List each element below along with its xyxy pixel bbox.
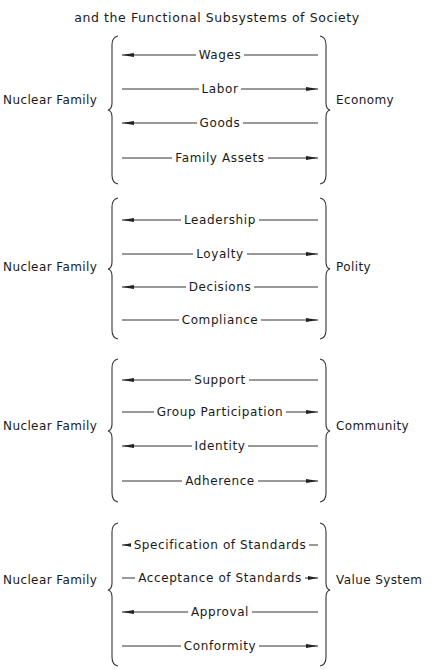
group-community: Nuclear Family Community Support Group P… <box>0 358 434 503</box>
flow-row-wages: Wages <box>120 47 320 63</box>
flow-row-identity: Identity <box>120 438 320 454</box>
flow-row-approval: Approval <box>120 604 320 620</box>
flow-row-family-assets: Family Assets <box>120 150 320 166</box>
flow-label: Compliance <box>179 313 262 327</box>
flow-row-group-participation: Group Participation <box>120 404 320 420</box>
right-brace-icon <box>318 35 332 185</box>
flow-label: Loyalty <box>193 247 247 261</box>
flow-label: Labor <box>199 82 242 96</box>
flow-label: Goods <box>197 116 244 130</box>
flow-label: Family Assets <box>172 151 267 165</box>
flow-row-conformity: Conformity <box>120 638 320 654</box>
flow-label: Support <box>191 373 249 387</box>
flow-label: Identity <box>192 439 249 453</box>
right-label-polity: Polity <box>336 260 371 274</box>
flow-row-labor: Labor <box>120 81 320 97</box>
flow-label: Acceptance of Standards <box>135 571 305 585</box>
right-brace-icon <box>318 197 332 340</box>
flow-row-adherence: Adherence <box>120 473 320 489</box>
flow-label: Adherence <box>182 474 258 488</box>
left-label-nuclear-family: Nuclear Family <box>3 573 97 587</box>
flow-row-compliance: Compliance <box>120 312 320 328</box>
left-brace-icon <box>106 35 120 185</box>
right-label-value-system: Value System <box>336 573 422 587</box>
flow-row-specification-of-standards: Specification of Standards <box>120 537 320 553</box>
right-label-community: Community <box>336 419 409 433</box>
right-brace-icon <box>318 522 332 667</box>
flow-row-decisions: Decisions <box>120 279 320 295</box>
group-economy: Nuclear Family Economy Wages Labor Goods… <box>0 35 434 185</box>
left-label-nuclear-family: Nuclear Family <box>3 419 97 433</box>
flow-row-support: Support <box>120 372 320 388</box>
diagram-title: and the Functional Subsystems of Society <box>0 10 434 25</box>
left-label-nuclear-family: Nuclear Family <box>3 93 97 107</box>
right-label-economy: Economy <box>336 93 394 107</box>
flow-label: Decisions <box>186 280 255 294</box>
flow-row-leadership: Leadership <box>120 212 320 228</box>
flow-label: Conformity <box>181 639 259 653</box>
flow-label: Leadership <box>181 213 259 227</box>
flow-row-acceptance-of-standards: Acceptance of Standards <box>120 570 320 586</box>
group-polity: Nuclear Family Polity Leadership Loyalty… <box>0 197 434 340</box>
flow-label: Group Participation <box>154 405 287 419</box>
left-brace-icon <box>106 358 120 503</box>
group-value-system: Nuclear Family Value System Specificatio… <box>0 522 434 667</box>
left-label-nuclear-family: Nuclear Family <box>3 260 97 274</box>
flow-row-loyalty: Loyalty <box>120 246 320 262</box>
flow-label: Wages <box>196 48 245 62</box>
flow-row-goods: Goods <box>120 115 320 131</box>
flow-label: Approval <box>188 605 252 619</box>
right-brace-icon <box>318 358 332 503</box>
left-brace-icon <box>106 197 120 340</box>
flow-label: Specification of Standards <box>131 538 310 552</box>
left-brace-icon <box>106 522 120 667</box>
